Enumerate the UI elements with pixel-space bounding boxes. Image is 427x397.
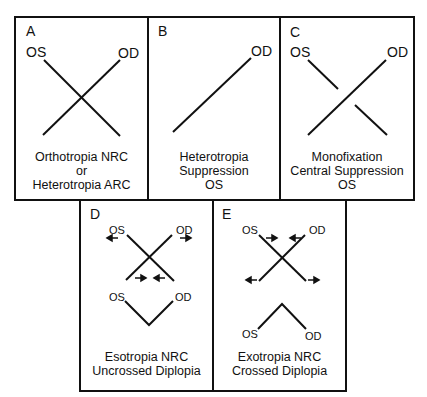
panel-d-os-bottom-label: OS: [109, 292, 125, 303]
panel-c-os-line-upper: [308, 60, 338, 89]
panel-d-caption: Esotropia NRC Uncrossed Diplopia: [80, 350, 213, 378]
panel-c-os-line-lower: [355, 105, 387, 135]
diagram-canvas: [0, 0, 427, 397]
panel-e-caret-shape: [258, 304, 306, 329]
panel-c-os-label: OS: [290, 45, 310, 59]
panel-a-caption: Orthotropia NRC or Heterotropia ARC: [15, 150, 148, 192]
panel-d-od-bottom-label: OD: [175, 292, 192, 303]
panel-d-letter: D: [90, 207, 100, 221]
panel-e-letter: E: [222, 207, 231, 221]
panel-c-letter: C: [290, 25, 300, 39]
panel-c-caption: Monofixation Central Suppression OS: [280, 150, 414, 192]
panel-e-os-top-label: OS: [242, 225, 258, 236]
panel-d-os-top-label: OS: [109, 225, 125, 236]
panel-d-os-line: [127, 235, 174, 281]
panel-e-od-top-label: OD: [309, 225, 326, 236]
panel-a-od-label: OD: [118, 46, 139, 60]
panel-c-od-label: OD: [387, 45, 408, 59]
panel-a-letter: A: [26, 24, 35, 38]
panel-b-caption: Heterotropia Suppression OS: [148, 150, 280, 192]
arrow-left-icon: [154, 275, 165, 281]
panel-b-letter: B: [158, 24, 167, 38]
arrow-right-icon: [135, 275, 146, 281]
panel-b-od-line: [173, 58, 251, 132]
panel-a-os-label: OS: [26, 45, 46, 59]
panel-e-od-bottom-label: OD: [305, 331, 322, 342]
panel-e-os-bottom-label: OS: [242, 329, 258, 340]
arrow-left-icon: [246, 277, 257, 283]
panel-d-v-shape: [125, 301, 173, 325]
arrow-right-icon: [266, 235, 277, 241]
arrow-right-icon: [308, 277, 319, 283]
panel-b-od-label: OD: [251, 44, 272, 58]
panel-d-od-top-label: OD: [176, 225, 193, 236]
panel-e-caption: Exotropia NRC Crossed Diplopia: [213, 350, 346, 378]
